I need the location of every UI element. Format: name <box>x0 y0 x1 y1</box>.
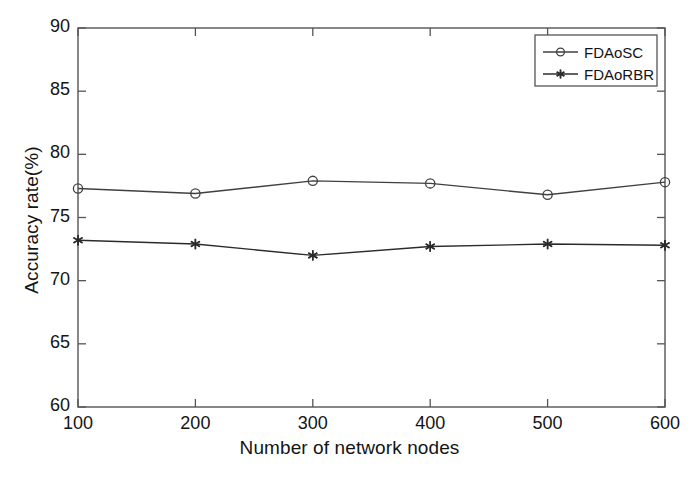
x-axis-tick-label: 300 <box>283 413 343 434</box>
data-series-fdaosc <box>73 176 669 199</box>
chart-legend[interactable]: FDAoSCFDAoRBR <box>535 35 657 86</box>
x-axis-tick-label: 200 <box>165 413 225 434</box>
x-axis-title: Number of network nodes <box>0 437 699 459</box>
chart-figure: FDAoSCFDAoRBR 60657075808590 10020030040… <box>0 0 699 484</box>
legend-label: FDAoRBR <box>584 66 654 83</box>
x-axis-tick-label: 600 <box>635 413 695 434</box>
data-series-fdaorbr <box>73 235 669 261</box>
plot-canvas: FDAoSCFDAoRBR <box>0 0 699 484</box>
x-axis-tick-label: 100 <box>48 413 108 434</box>
x-axis-tick-label: 400 <box>400 413 460 434</box>
data-series-layer <box>73 176 669 260</box>
legend-label: FDAoSC <box>584 44 643 61</box>
y-axis-title: Accuracy rate(%) <box>21 146 43 293</box>
x-axis-tick-label: 500 <box>518 413 578 434</box>
y-axis-title-wrapper: Accuracy rate(%) <box>21 30 43 410</box>
